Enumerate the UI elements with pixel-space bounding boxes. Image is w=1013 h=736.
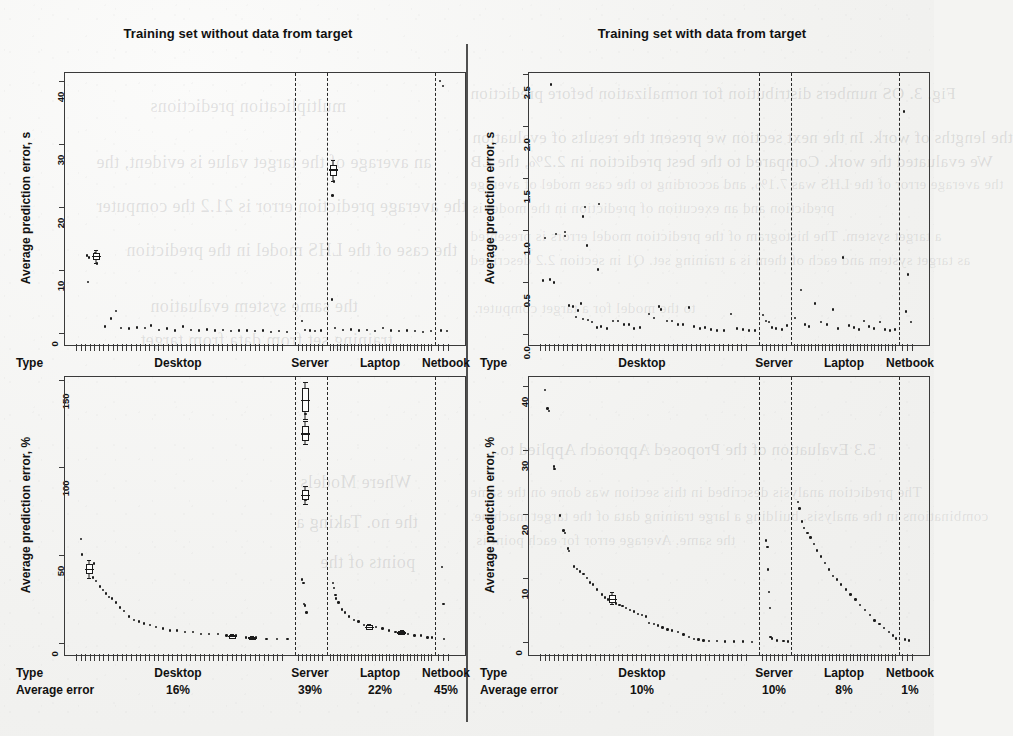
x-tick: [645, 654, 646, 661]
data-point: [430, 330, 433, 333]
plot-area-top-left: [64, 72, 466, 346]
panel-title: Training set without data from target: [12, 26, 464, 41]
x-tick-group: [540, 344, 746, 351]
x-tick: [347, 344, 348, 351]
group-divider-line: [791, 73, 792, 345]
x-tick: [700, 344, 701, 351]
x-tick: [181, 344, 182, 351]
x-category-netbook: Netbook: [865, 356, 955, 370]
x-tick: [613, 344, 614, 351]
data-point: [422, 331, 425, 334]
data-point: [787, 640, 790, 643]
x-tick: [860, 654, 861, 661]
x-axis-row-label-type: Type: [16, 356, 43, 370]
x-tick: [746, 344, 747, 351]
data-point: [653, 317, 656, 320]
x-tick: [168, 654, 169, 661]
data-point: [699, 327, 702, 330]
y-tick-label: 0.0: [521, 346, 532, 359]
data-point: [549, 278, 552, 281]
data-point: [771, 326, 774, 329]
data-point: [589, 581, 592, 584]
x-tick: [549, 344, 550, 351]
group-divider-line: [295, 73, 296, 345]
x-tick: [682, 344, 683, 351]
data-point: [104, 325, 107, 328]
x-tick: [864, 654, 865, 661]
x-tick: [358, 344, 359, 351]
x-tick: [94, 654, 95, 661]
x-tick: [686, 654, 687, 661]
x-tick: [549, 654, 550, 661]
data-point: [653, 623, 656, 626]
x-tick: [113, 654, 114, 661]
x-tick: [673, 654, 674, 661]
x-tick: [393, 654, 394, 661]
data-point: [81, 553, 84, 556]
x-tick: [686, 344, 687, 351]
data-point: [553, 281, 556, 284]
x-tick: [204, 654, 205, 661]
x-tick: [778, 654, 779, 661]
data-point: [169, 629, 172, 632]
group-divider-line: [435, 73, 436, 345]
x-tick: [818, 654, 819, 661]
data-point: [597, 268, 600, 271]
data-point: [222, 329, 225, 332]
x-tick: [636, 344, 637, 351]
data-point: [736, 327, 739, 330]
x-tick: [782, 344, 783, 351]
data-point: [553, 468, 556, 471]
data-point: [265, 638, 268, 641]
x-tick: [273, 344, 274, 351]
x-tick: [774, 344, 775, 351]
data-point: [762, 314, 765, 317]
x-tick: [90, 344, 91, 351]
x-tick: [696, 344, 697, 351]
x-tick: [337, 654, 338, 661]
data-point: [150, 324, 153, 327]
x-tick: [414, 654, 415, 661]
data-point: [446, 330, 449, 333]
x-tick: [874, 654, 875, 661]
data-point: [765, 539, 768, 542]
data-point: [804, 323, 807, 326]
data-point: [88, 256, 91, 259]
x-tick: [241, 654, 242, 661]
panel-title-suffix: data from target: [248, 26, 352, 41]
data-point: [342, 329, 345, 332]
x-tick: [766, 344, 767, 351]
x-tick: [344, 654, 345, 661]
data-point: [623, 323, 626, 326]
x-tick: [822, 344, 823, 351]
data-point: [596, 588, 599, 591]
x-tick: [836, 654, 837, 661]
data-point: [816, 549, 819, 552]
x-tick: [310, 344, 311, 351]
x-category-desktop: Desktop: [133, 666, 223, 680]
x-tick: [200, 654, 201, 661]
x-tick-group: [794, 654, 895, 661]
data-point: [568, 304, 571, 307]
x-tick: [354, 344, 355, 351]
data-point: [661, 626, 664, 629]
data-point: [768, 321, 771, 324]
x-tick: [90, 654, 91, 661]
x-tick: [567, 654, 568, 661]
data-point: [217, 633, 220, 636]
x-tick: [786, 654, 787, 661]
data-point: [716, 640, 719, 643]
data-point: [587, 319, 590, 322]
x-tick: [590, 654, 591, 661]
x-tick: [340, 654, 341, 661]
data-point: [276, 638, 279, 641]
data-point: [682, 323, 685, 326]
boxplot-cap: [94, 250, 99, 251]
x-tick: [407, 654, 408, 661]
x-tick: [832, 344, 833, 351]
data-point: [688, 306, 691, 309]
data-point: [344, 611, 347, 614]
boxplot-cap: [87, 560, 92, 561]
data-point: [771, 637, 774, 640]
x-tick: [424, 344, 425, 351]
